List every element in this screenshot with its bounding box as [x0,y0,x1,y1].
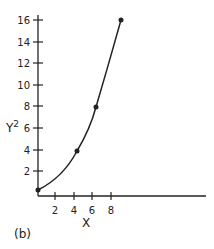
chart: 16 14 12 10 8 6 4 2 2 4 6 8 X Y2 (b) [0,0,214,249]
svg-text:8: 8 [24,101,30,112]
data-curve [38,20,121,190]
x-tick-labels: 2 4 6 8 [52,205,114,216]
y-tick-labels: 16 14 12 10 8 6 4 2 [17,15,30,177]
svg-text:2: 2 [24,166,30,177]
data-points [36,18,124,193]
svg-text:8: 8 [108,205,114,216]
svg-text:6: 6 [24,123,30,134]
panel-label: (b) [14,227,31,241]
svg-text:16: 16 [17,15,30,26]
svg-text:4: 4 [24,145,30,156]
svg-text:10: 10 [17,80,30,91]
x-axis-label: X [82,216,90,230]
y-axis-label: Y2 [5,119,19,135]
data-point [75,149,80,154]
data-point [36,188,41,193]
svg-text:12: 12 [17,58,30,69]
svg-text:4: 4 [71,205,77,216]
svg-text:14: 14 [17,37,30,48]
svg-text:2: 2 [52,205,58,216]
svg-text:6: 6 [89,205,95,216]
data-point [119,18,124,23]
data-point [94,105,99,110]
